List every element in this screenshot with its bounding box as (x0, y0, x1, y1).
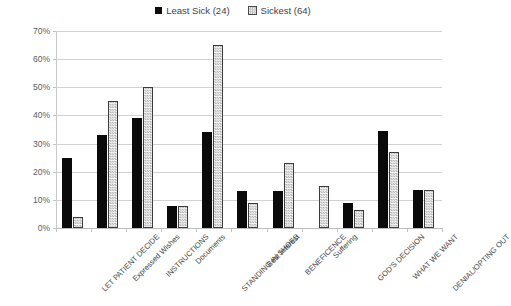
bar (132, 118, 142, 228)
x-axis-tick (372, 228, 373, 232)
x-axis-category-label: DENIAL/OPTING OUT (451, 233, 511, 293)
legend-label-sickest: Sickest (64) (261, 5, 311, 16)
x-axis-tick (407, 228, 408, 232)
bar (424, 190, 434, 228)
legend-entry-least-sick: Least Sick (24) (155, 5, 229, 16)
bar (343, 203, 353, 228)
bars-layer (56, 31, 442, 228)
x-axis-tick (126, 228, 127, 232)
x-axis-tick (267, 228, 268, 232)
dotted-square-icon (248, 6, 257, 15)
bar-group (267, 31, 302, 228)
bar (248, 203, 258, 228)
bar (319, 186, 329, 228)
bar (62, 158, 72, 228)
y-axis-tick-label: 50% (6, 83, 50, 92)
bar (97, 135, 107, 228)
legend-entry-sickest: Sickest (64) (248, 5, 311, 16)
x-axis-tick (56, 228, 57, 232)
bar (413, 190, 423, 228)
bar-group (372, 31, 407, 228)
bar (73, 217, 83, 228)
bar (378, 131, 388, 228)
x-axis-tick (442, 228, 443, 232)
y-axis-tick-label: 10% (6, 195, 50, 204)
bar-group (337, 31, 372, 228)
y-axis-tick-label: 0% (6, 224, 50, 233)
bar-group (126, 31, 161, 228)
bar (284, 163, 294, 228)
x-axis-tick (302, 228, 303, 232)
bar (237, 191, 247, 228)
bar-group (196, 31, 231, 228)
bar-group (56, 31, 91, 228)
plot-area (56, 31, 442, 228)
bar (178, 206, 188, 229)
bar (213, 45, 223, 228)
bar-group (161, 31, 196, 228)
y-axis-tick-label: 20% (6, 167, 50, 176)
bar (143, 87, 153, 228)
legend-label-least-sick: Least Sick (24) (166, 5, 229, 16)
chart-legend: Least Sick (24) Sickest (64) (0, 5, 466, 16)
y-axis-tick-label: 30% (6, 139, 50, 148)
y-axis-tick-label: 70% (6, 27, 50, 36)
x-axis-category-label: Best Interest (266, 233, 302, 269)
bar-group (302, 31, 337, 228)
bar (389, 152, 399, 228)
gridline (56, 228, 442, 229)
x-axis-tick (91, 228, 92, 232)
bar-group (91, 31, 126, 228)
x-axis-tick (231, 228, 232, 232)
bar (167, 206, 177, 229)
y-axis-tick-label: 60% (6, 55, 50, 64)
x-axis-labels: LET PATIENT DECIDEExpressed WishesINSTRU… (0, 233, 466, 306)
bar (108, 101, 118, 228)
x-axis-tick (196, 228, 197, 232)
bar-group (231, 31, 266, 228)
bar (273, 191, 283, 228)
x-axis-tick (337, 228, 338, 232)
solid-square-icon (155, 7, 162, 14)
y-axis-tick-label: 40% (6, 111, 50, 120)
x-axis-tick (161, 228, 162, 232)
bar-group (407, 31, 442, 228)
bar (202, 132, 212, 228)
bar (354, 210, 364, 228)
